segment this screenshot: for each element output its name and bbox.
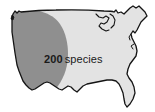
species-count-value: 200 [44, 53, 63, 65]
species-count-label: 200species [44, 53, 110, 66]
us-species-map-figure: 200species [0, 0, 155, 112]
species-count-unit: species [65, 53, 103, 65]
